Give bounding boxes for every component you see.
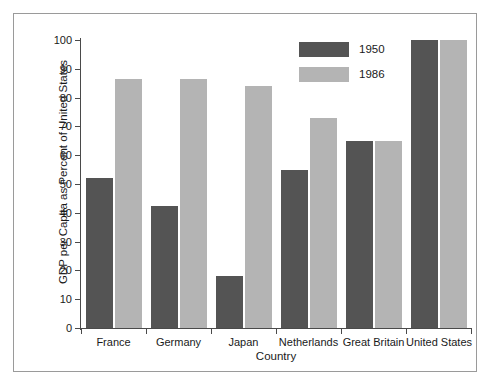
- y-axis-tick-label-text: 0: [28, 323, 72, 334]
- x-axis-category-label: Germany: [146, 336, 211, 348]
- bar: [115, 79, 142, 328]
- bar: [375, 141, 402, 328]
- bar: [411, 40, 438, 328]
- legend-swatch-1950: [299, 42, 349, 57]
- bar: [245, 86, 272, 328]
- bar: [151, 206, 178, 328]
- x-axis-category-label: Great Britain: [341, 336, 406, 348]
- x-axis-category-label: France: [81, 336, 146, 348]
- y-axis-tick-label: 30: [22, 237, 72, 248]
- y-axis-tick-label-text: 40: [28, 208, 72, 219]
- y-axis-tick-label-text: 10: [28, 294, 72, 305]
- x-axis-category-label: Japan: [211, 336, 276, 348]
- bar: [180, 79, 207, 328]
- legend-label-1986: 1986: [359, 68, 385, 81]
- bar: [440, 40, 467, 328]
- y-axis-tick-label: 100: [22, 35, 72, 46]
- x-axis-tick: [146, 329, 147, 334]
- y-axis-tick-label: 20: [22, 265, 72, 276]
- bar: [346, 141, 373, 328]
- bar: [281, 170, 308, 328]
- x-axis-tick: [276, 329, 277, 334]
- x-axis-category-label: Netherlands: [276, 336, 341, 348]
- plot-area: [81, 40, 471, 328]
- x-axis-tick: [211, 329, 212, 334]
- y-axis-tick-label-text: 60: [28, 150, 72, 161]
- y-axis-tick-label: 70: [22, 121, 72, 132]
- x-axis-title: Country: [80, 350, 472, 362]
- legend-swatch-1986: [299, 67, 349, 82]
- y-axis-tick-label: 40: [22, 208, 72, 219]
- x-axis-tick: [341, 329, 342, 334]
- legend-label-1950: 1950: [359, 43, 385, 56]
- chart-figure-frame: GDP per Capita as Percent of United Stat…: [13, 13, 477, 372]
- y-axis-tick-label-text: 20: [28, 265, 72, 276]
- x-axis-category-label: United States: [406, 336, 471, 348]
- y-axis-tick-label: 60: [22, 150, 72, 161]
- x-axis-tick: [406, 329, 407, 334]
- bar: [216, 276, 243, 328]
- y-axis-tick-label: 90: [22, 64, 72, 75]
- y-axis-tick-label: 0: [22, 323, 72, 334]
- y-axis-tick-label: 10: [22, 294, 72, 305]
- y-axis-tick-label-text: 50: [28, 179, 72, 190]
- y-axis-tick-label-text: 90: [28, 64, 72, 75]
- bar: [86, 178, 113, 328]
- x-axis-tick: [471, 329, 472, 334]
- y-axis-tick-label-text: 30: [28, 237, 72, 248]
- y-axis-tick-label: 50: [22, 179, 72, 190]
- y-axis-tick-label-text: 70: [28, 121, 72, 132]
- y-axis-tick-label-text: 80: [28, 93, 72, 104]
- x-axis-tick: [81, 329, 82, 334]
- y-axis-tick-label: 80: [22, 93, 72, 104]
- bar: [310, 118, 337, 328]
- y-axis-tick-label-text: 100: [28, 35, 72, 46]
